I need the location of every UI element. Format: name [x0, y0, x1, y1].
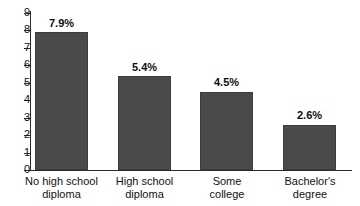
y-tick-label: 5	[12, 77, 30, 88]
x-category-label-line2: diploma	[107, 188, 182, 201]
y-tick-label: 0	[12, 164, 30, 175]
y-tick-label: 4	[12, 94, 30, 105]
bar-value-label: 7.9%	[35, 17, 88, 29]
x-category-label-line2: degree	[274, 188, 346, 201]
x-category-label-0: No high school diploma	[19, 175, 104, 201]
y-tick-label: 3	[12, 112, 30, 123]
x-category-label-line1: Bachelor's	[284, 175, 335, 187]
y-tick-label: 1	[12, 147, 30, 158]
x-category-label-line1: No high school	[25, 175, 98, 187]
x-category-label-line2: college	[192, 188, 262, 201]
y-tick-label: 8	[12, 24, 30, 35]
bar-no-high-school-diploma	[35, 32, 88, 170]
bar-value-label: 5.4%	[118, 61, 171, 73]
y-tick-label: 2	[12, 129, 30, 140]
y-tick-label: 7	[12, 42, 30, 53]
bar-chart: 9 8 7 6 5 4 3 2	[0, 0, 360, 206]
bar-value-label: 4.5%	[200, 76, 253, 88]
y-tick-label: 6	[12, 59, 30, 70]
x-category-label-line1: Some	[213, 175, 242, 187]
y-tick-label: 9	[12, 7, 30, 18]
bar-high-school-diploma	[118, 76, 171, 170]
x-category-label-line2: diploma	[19, 188, 104, 201]
bar-bachelors-degree	[283, 125, 336, 170]
x-category-label-2: Some college	[192, 175, 262, 201]
x-axis-line	[30, 170, 352, 171]
x-category-label-1: High school diploma	[107, 175, 182, 201]
y-axis-line	[30, 11, 31, 171]
bar-value-label: 2.6%	[283, 109, 336, 121]
x-category-label-line1: High school	[116, 175, 173, 187]
x-category-label-3: Bachelor's degree	[274, 175, 346, 201]
bar-some-college	[200, 92, 253, 171]
